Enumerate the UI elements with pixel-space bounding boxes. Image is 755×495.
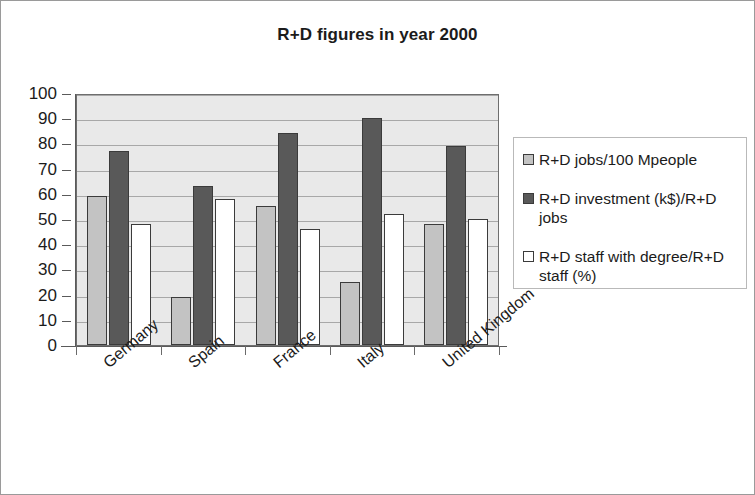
- y-axis-tick-label: 40: [13, 235, 57, 255]
- plot-wrapper: 1009080706050403020100: [76, 94, 499, 346]
- y-axis-tick-mark: [62, 119, 71, 120]
- y-axis-tick-label: 50: [13, 210, 57, 230]
- legend-swatch-icon: [523, 193, 534, 204]
- legend-item-label: R+D jobs/100 Mpeople: [539, 150, 697, 169]
- bar[interactable]: [278, 133, 298, 345]
- legend-item-label: R+D staff with degree/R+D staff (%): [539, 247, 738, 285]
- y-axis-tick-label: 20: [13, 286, 57, 306]
- y-axis-tick-mark: [62, 170, 71, 171]
- y-axis-tick-label: 70: [13, 160, 57, 180]
- legend-item-label: R+D investment (k$)/R+D jobs: [539, 189, 738, 227]
- bar-group: [77, 95, 161, 345]
- bar[interactable]: [446, 146, 466, 345]
- y-axis-tick-mark: [62, 346, 71, 347]
- bar-group: [245, 95, 329, 345]
- x-axis-tick-mark: [499, 346, 500, 355]
- y-axis-tick-mark: [62, 195, 71, 196]
- bar-group: [330, 95, 414, 345]
- legend-item[interactable]: R+D investment (k$)/R+D jobs: [523, 189, 738, 227]
- legend-swatch-icon: [523, 251, 534, 262]
- x-axis-tick-mark: [76, 346, 77, 355]
- y-axis-tick-label: 0: [13, 336, 57, 356]
- x-axis-tick-mark: [414, 346, 415, 355]
- bar[interactable]: [256, 206, 276, 345]
- y-axis-tick-label: 60: [13, 185, 57, 205]
- bar[interactable]: [109, 151, 129, 345]
- legend-item[interactable]: R+D staff with degree/R+D staff (%): [523, 247, 738, 285]
- y-axis-tick-label: 90: [13, 109, 57, 129]
- x-axis-tick-mark: [330, 346, 331, 355]
- chart-legend: R+D jobs/100 MpeopleR+D investment (k$)/…: [513, 137, 747, 289]
- y-axis: 1009080706050403020100: [13, 84, 71, 356]
- bar[interactable]: [87, 196, 107, 345]
- chart-title: R+D figures in year 2000: [1, 25, 754, 45]
- plot-area: [76, 94, 499, 346]
- bar[interactable]: [424, 224, 444, 345]
- bar-group: [161, 95, 245, 345]
- bar[interactable]: [384, 214, 404, 345]
- y-axis-tick-label: 100: [13, 84, 57, 104]
- bar[interactable]: [215, 199, 235, 345]
- legend-swatch-icon: [523, 154, 534, 165]
- y-axis-tick-mark: [62, 144, 71, 145]
- bar[interactable]: [193, 186, 213, 345]
- bar[interactable]: [362, 118, 382, 345]
- y-axis-tick-label: 10: [13, 311, 57, 331]
- bar[interactable]: [340, 282, 360, 345]
- y-axis-tick-mark: [62, 245, 71, 246]
- x-axis-tick-mark: [245, 346, 246, 355]
- bar[interactable]: [171, 297, 191, 345]
- y-axis-tick-label: 80: [13, 134, 57, 154]
- y-axis-tick-mark: [62, 220, 71, 221]
- y-axis-tick-mark: [62, 321, 71, 322]
- x-axis-tick-mark: [161, 346, 162, 355]
- y-axis-tick-mark: [62, 94, 71, 95]
- y-axis-tick-mark: [62, 296, 71, 297]
- chart-figure: R+D figures in year 2000 100908070605040…: [0, 0, 755, 495]
- y-axis-tick-mark: [62, 270, 71, 271]
- bar-group: [414, 95, 498, 345]
- y-axis-tick-label: 30: [13, 260, 57, 280]
- bar-groups: [77, 95, 498, 345]
- legend-item[interactable]: R+D jobs/100 Mpeople: [523, 150, 738, 169]
